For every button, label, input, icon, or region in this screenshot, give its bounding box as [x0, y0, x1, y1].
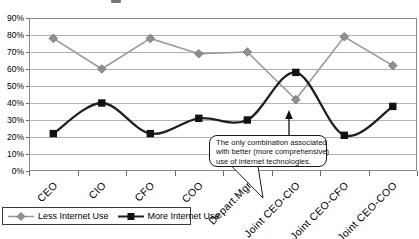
x-category-label: CFO — [132, 179, 157, 204]
annotation-arrow-head — [285, 110, 293, 119]
y-tick-label: 20% — [7, 132, 24, 142]
data-point-marker — [98, 99, 105, 106]
y-tick-label: 60% — [7, 64, 24, 74]
legend: Less Internet Use More Internet Use — [2, 207, 191, 225]
chart-figure: 0%10%20%30%40%50%60%70%80%90%CEOCIOCFOCO… — [0, 0, 419, 239]
data-point-marker — [50, 130, 57, 137]
y-tick-label: 80% — [7, 30, 24, 40]
data-point-marker — [389, 61, 398, 70]
y-tick-label: 40% — [7, 98, 24, 108]
data-point-marker — [292, 69, 299, 76]
y-tick-label: 90% — [7, 13, 24, 23]
chart-canvas: 0%10%20%30%40%50%60%70%80%90%CEOCIOCFOCO… — [0, 0, 419, 239]
y-tick-label: 0% — [12, 166, 25, 176]
y-tick-label: 10% — [7, 149, 24, 159]
annotation-callout: The only combination associated with bet… — [209, 135, 327, 167]
x-category-label: CIO — [86, 179, 108, 201]
diamond-marker-icon — [8, 212, 34, 221]
legend-label: Less Internet Use — [38, 211, 109, 221]
x-category-label: CEO — [35, 179, 60, 204]
data-point-marker — [341, 132, 348, 139]
data-point-marker — [389, 103, 396, 110]
legend-label: More Internet Use — [148, 211, 220, 221]
data-point-marker — [195, 49, 204, 58]
legend-item-less-internet-use: Less Internet Use — [8, 211, 109, 221]
data-point-marker — [98, 65, 107, 74]
annotation-line: use of internet technologies. — [216, 157, 323, 166]
annotation-line: The only combination associated — [216, 138, 323, 147]
data-point-marker — [147, 130, 154, 137]
data-point-marker — [195, 115, 202, 122]
x-category-label: COO — [179, 179, 205, 205]
annotation-line: with better (more comprehensive) — [216, 147, 323, 156]
legend-item-more-internet-use: More Internet Use — [118, 211, 220, 221]
data-point-marker — [244, 116, 251, 123]
chart-generated-content: 0%10%20%30%40%50%60%70%80%90%CEOCIOCFOCO… — [7, 13, 418, 239]
y-tick-label: 50% — [7, 81, 24, 91]
y-tick-label: 30% — [7, 115, 24, 125]
y-tick-label: 70% — [7, 47, 24, 57]
square-marker-icon — [118, 212, 144, 221]
